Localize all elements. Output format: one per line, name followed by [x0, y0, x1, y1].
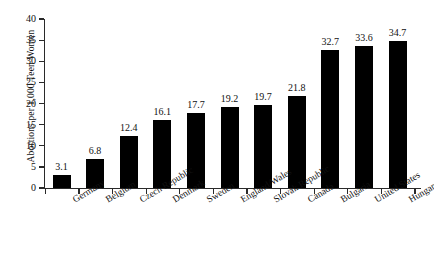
y-axis-tick-label: 10: [0, 141, 36, 151]
bar-value-label: 19.7: [243, 92, 283, 102]
y-axis-tick: [39, 124, 44, 125]
bar-value-label: 21.8: [277, 83, 317, 93]
bar-value-label: 12.4: [109, 123, 149, 133]
bar-chart: Abortions per 1,000 Teen Women 051015202…: [0, 0, 434, 266]
bar-value-label: 3.1: [42, 162, 82, 172]
bar[interactable]: [355, 46, 373, 188]
x-axis-category-label: Slovak Republic: [272, 196, 277, 205]
y-axis-tick-label: 35: [0, 35, 36, 45]
bar-value-label: 6.8: [75, 146, 115, 156]
y-axis-tick-label: 40: [0, 14, 36, 24]
y-axis-tick: [39, 18, 44, 19]
x-axis-category-label: Sweden: [205, 196, 210, 205]
y-axis-tick: [39, 40, 44, 41]
x-axis-category-label: Canada: [306, 196, 311, 205]
x-axis-category-label: United States: [373, 196, 378, 205]
y-axis-tick: [39, 61, 44, 62]
y-axis-tick: [39, 103, 44, 104]
x-axis-category-label: England/Wales: [239, 196, 244, 205]
x-axis-category-label: Hungary: [407, 196, 412, 205]
bar-value-label: 34.7: [378, 28, 418, 38]
y-axis-tick-label: 5: [0, 162, 36, 172]
x-axis-category-label: Germany: [71, 196, 76, 205]
y-axis-tick-label: 25: [0, 77, 36, 87]
y-axis-tick-label: 20: [0, 99, 36, 109]
y-axis-tick-label: 30: [0, 56, 36, 66]
x-axis-category-label: Belgium: [104, 196, 109, 205]
bar[interactable]: [389, 41, 407, 188]
x-axis-category-label: Bulgaria: [339, 196, 344, 205]
y-axis-tick-label: 0: [0, 183, 36, 193]
bar[interactable]: [221, 107, 239, 188]
bar[interactable]: [53, 175, 71, 188]
y-axis-title: Abortions per 1,000 Teen Women: [24, 6, 38, 186]
y-axis-tick: [39, 82, 44, 83]
y-axis-tick-label: 15: [0, 120, 36, 130]
x-axis-category-label: Denmark: [171, 196, 176, 205]
bar[interactable]: [254, 105, 272, 188]
x-axis-tick: [45, 189, 46, 194]
bar[interactable]: [187, 113, 205, 188]
x-axis-category-label: Czech Republic: [138, 196, 143, 205]
y-axis-tick: [39, 145, 44, 146]
y-axis-tick: [39, 187, 44, 188]
